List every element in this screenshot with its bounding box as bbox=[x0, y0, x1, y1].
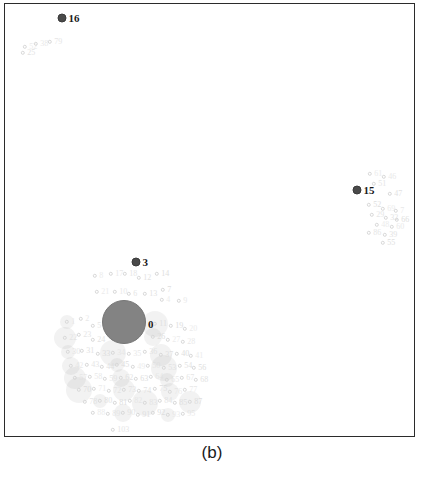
scatter-label: 27 bbox=[172, 336, 180, 344]
scatter-point[interactable] bbox=[113, 401, 117, 405]
scatter-label: 8 bbox=[99, 272, 103, 280]
scatter-point[interactable] bbox=[149, 375, 153, 379]
scatter-point-major[interactable] bbox=[102, 300, 146, 344]
scatter-point-major[interactable] bbox=[132, 258, 141, 267]
scatter-point[interactable] bbox=[367, 203, 371, 207]
scatter-point[interactable] bbox=[388, 192, 392, 196]
scatter-point[interactable] bbox=[21, 51, 25, 55]
scatter-point[interactable] bbox=[169, 324, 173, 328]
scatter-point[interactable] bbox=[91, 411, 95, 415]
scatter-point[interactable] bbox=[92, 387, 96, 391]
scatter-point[interactable] bbox=[381, 241, 385, 245]
scatter-label: 88 bbox=[97, 409, 105, 417]
scatter-label: 23 bbox=[83, 331, 91, 339]
scatter-point[interactable] bbox=[383, 233, 387, 237]
scatter-label: 103 bbox=[117, 426, 129, 434]
scatter-label: 71 bbox=[98, 385, 106, 393]
scatter-point[interactable] bbox=[77, 333, 81, 337]
scatter-label: 46 bbox=[388, 173, 396, 181]
scatter-point[interactable] bbox=[123, 272, 127, 276]
scatter-point-major[interactable] bbox=[58, 14, 67, 23]
scatter-point[interactable] bbox=[95, 290, 99, 294]
scatter-point[interactable] bbox=[158, 399, 162, 403]
scatter-point[interactable] bbox=[79, 317, 83, 321]
scatter-point[interactable] bbox=[155, 272, 159, 276]
scatter-point[interactable] bbox=[370, 213, 374, 217]
scatter-point[interactable] bbox=[390, 225, 394, 229]
scatter-point[interactable] bbox=[127, 292, 131, 296]
scatter-point[interactable] bbox=[161, 288, 165, 292]
scatter-point[interactable] bbox=[34, 42, 38, 46]
scatter-label: 24 bbox=[97, 336, 105, 344]
scatter-point[interactable] bbox=[107, 389, 111, 393]
scatter-label: 13 bbox=[149, 290, 157, 298]
scatter-label: 73 bbox=[128, 386, 136, 394]
scatter-point[interactable] bbox=[143, 292, 147, 296]
scatter-point[interactable] bbox=[113, 290, 117, 294]
scatter-label: 9 bbox=[183, 297, 187, 305]
scatter-label-major: 16 bbox=[69, 13, 80, 24]
scatter-point[interactable] bbox=[175, 352, 179, 356]
figure-container: 1615305238792561465147526972932664860863… bbox=[0, 0, 424, 477]
scatter-point[interactable] bbox=[180, 376, 184, 380]
scatter-point[interactable] bbox=[194, 378, 198, 382]
scatter-point[interactable] bbox=[372, 182, 376, 186]
scatter-label: 76 bbox=[174, 388, 182, 396]
scatter-point[interactable] bbox=[88, 375, 92, 379]
scatter-point[interactable] bbox=[181, 412, 185, 416]
scatter-point[interactable] bbox=[367, 231, 371, 235]
scatter-label: 90 bbox=[127, 409, 135, 417]
scatter-point[interactable] bbox=[103, 377, 107, 381]
scatter-label: 7 bbox=[167, 286, 171, 294]
scatter-point[interactable] bbox=[153, 387, 157, 391]
scatter-label: 84 bbox=[164, 397, 172, 405]
scatter-point[interactable] bbox=[100, 365, 104, 369]
scatter-label: 60 bbox=[396, 223, 404, 231]
scatter-label: 89 bbox=[112, 410, 120, 418]
scatter-label: 65 bbox=[171, 376, 179, 384]
scatter-label: 72 bbox=[113, 387, 121, 395]
scatter-point[interactable] bbox=[143, 350, 147, 354]
scatter-label: 87 bbox=[194, 398, 202, 406]
scatter-label: 64 bbox=[155, 373, 163, 381]
scatter-point[interactable] bbox=[109, 272, 113, 276]
scatter-label: 59 bbox=[109, 375, 117, 383]
scatter-point[interactable] bbox=[178, 364, 182, 368]
scatter-label: 33 bbox=[102, 350, 110, 358]
scatter-point[interactable] bbox=[106, 412, 110, 416]
scatter-point[interactable] bbox=[177, 299, 181, 303]
scatter-point[interactable] bbox=[48, 40, 52, 44]
scatter-point[interactable] bbox=[83, 400, 87, 404]
scatter-point[interactable] bbox=[131, 365, 135, 369]
scatter-point[interactable] bbox=[166, 338, 170, 342]
scatter-point[interactable] bbox=[368, 172, 372, 176]
scatter-point[interactable] bbox=[93, 274, 97, 278]
scatter-label: 26 bbox=[157, 333, 165, 341]
plot-area: 1615305238792561465147526972932664860863… bbox=[5, 4, 414, 436]
scatter-label: 35 bbox=[133, 350, 141, 358]
scatter-point[interactable] bbox=[192, 366, 196, 370]
scatter-point[interactable] bbox=[91, 324, 95, 328]
scatter-label: 28 bbox=[187, 338, 195, 346]
scatter-point-major[interactable] bbox=[353, 186, 362, 195]
scatter-point[interactable] bbox=[91, 338, 95, 342]
scatter-point[interactable] bbox=[111, 428, 115, 432]
scatter-point[interactable] bbox=[136, 413, 140, 417]
scatter-point[interactable] bbox=[151, 411, 155, 415]
scatter-point[interactable] bbox=[160, 298, 164, 302]
scatter-point[interactable] bbox=[173, 401, 177, 405]
scatter-point[interactable] bbox=[183, 327, 187, 331]
scatter-point[interactable] bbox=[181, 340, 185, 344]
scatter-label: 43 bbox=[91, 361, 99, 369]
scatter-label: 12 bbox=[143, 274, 151, 282]
scatter-point[interactable] bbox=[80, 349, 84, 353]
scatter-point[interactable] bbox=[85, 363, 89, 367]
scatter-point[interactable] bbox=[127, 352, 131, 356]
scatter-point[interactable] bbox=[134, 377, 138, 381]
scatter-point[interactable] bbox=[146, 364, 150, 368]
scatter-label: 11 bbox=[159, 320, 167, 328]
scatter-point[interactable] bbox=[189, 354, 193, 358]
scatter-point[interactable] bbox=[137, 276, 141, 280]
scatter-point[interactable] bbox=[375, 223, 379, 227]
scatter-label: 83 bbox=[149, 399, 157, 407]
